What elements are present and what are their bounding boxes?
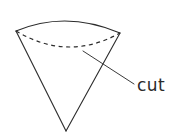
cut-plane-dashed-arc — [16, 31, 120, 47]
cone-top-arc — [16, 21, 120, 33]
cone-left-edge — [16, 31, 66, 131]
cone-right-edge — [66, 33, 120, 131]
cut-label: cut — [137, 75, 165, 95]
cut-leader-line — [83, 51, 134, 84]
cone-cut-diagram: cut — [0, 0, 179, 140]
diagram-canvas: cut — [0, 0, 179, 140]
